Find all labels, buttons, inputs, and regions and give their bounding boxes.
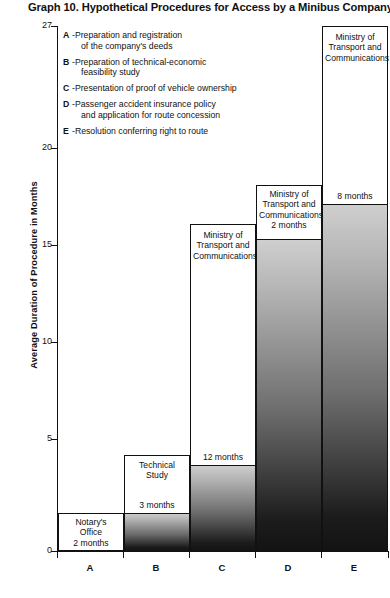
bar-d-name-line2: Transport and — [262, 199, 315, 209]
bar-e: Ministry of Transport and Communications… — [322, 26, 388, 551]
x-tick-mark-3 — [255, 552, 256, 558]
x-tick-label-d: D — [255, 562, 321, 573]
x-tick-label-e: E — [321, 562, 387, 573]
legend-text-d: -Passenger accident insurance policy and… — [72, 99, 279, 120]
bar-b: Technical Study 3 months — [124, 455, 190, 551]
y-tick-label-0: 0 — [26, 545, 52, 555]
x-axis-line — [57, 551, 389, 552]
y-axis-line — [57, 26, 58, 552]
chart-title: Graph 10. Hypothetical Procedures for Ac… — [28, 1, 386, 13]
y-tick-mark-5 — [51, 439, 57, 440]
bar-e-fill — [322, 204, 388, 551]
legend-text-d-line2: and application for route concession — [72, 110, 279, 121]
bar-a-name-line1: Notary's — [75, 517, 106, 527]
legend-item-c: C -Presentation of proof of vehicle owne… — [63, 83, 279, 94]
bar-c-duration: 12 months — [193, 452, 253, 462]
bar-d: Ministry of Transport and Communications… — [256, 185, 322, 551]
x-tick-mark-1 — [123, 552, 124, 558]
legend-item-a: A -Preparation and registration of the c… — [63, 30, 279, 51]
x-tick-mark-4 — [321, 552, 322, 558]
bar-c: Ministry of Transport and Communications… — [190, 224, 256, 551]
bar-b-label-box: Technical Study 3 months — [124, 455, 190, 514]
y-tick-mark-20 — [51, 148, 57, 149]
y-tick-label-10: 10 — [26, 336, 52, 346]
bar-d-name-line1: Ministry of — [269, 189, 308, 199]
chart-root: Graph 10. Hypothetical Procedures for Ac… — [0, 0, 390, 598]
legend-item-d: D -Passenger accident insurance policy a… — [63, 99, 279, 120]
y-tick-mark-15 — [51, 245, 57, 246]
bar-c-name: Ministry of Transport and Communications — [193, 230, 253, 261]
legend-key-c: C — [63, 83, 72, 94]
legend-text-b: -Preparation of technical-economic feasi… — [72, 57, 279, 78]
bar-b-name-line1: Technical — [139, 460, 175, 470]
legend-text-a-line2: of the company's deeds — [72, 41, 279, 52]
bar-c-label-box: Ministry of Transport and Communications… — [190, 224, 256, 466]
legend-item-e: E -Resolution conferring right to route — [63, 126, 279, 137]
bar-e-duration: 8 months — [325, 191, 385, 201]
legend-text-b-line1: -Preparation of technical-economic — [72, 57, 206, 67]
bar-b-fill — [124, 513, 190, 551]
legend-text-e: -Resolution conferring right to route — [72, 126, 279, 137]
bar-a-label-box: Notary's Office 2 months — [58, 513, 124, 551]
bar-d-name-line3: Communications — [259, 210, 323, 220]
bar-c-name-line2: Transport and — [196, 240, 249, 250]
legend-key-e: E — [63, 126, 72, 137]
bar-e-name: Ministry of Transport and Communications — [325, 32, 385, 63]
legend-item-b: B -Preparation of technical-economic fea… — [63, 57, 279, 78]
bar-a-duration: 2 months — [73, 538, 108, 548]
x-tick-mark-0 — [57, 552, 58, 558]
bar-d-name: Ministry of Transport and Communications… — [259, 189, 319, 231]
x-tick-label-c: C — [189, 562, 255, 573]
bar-b-name-line2: Study — [146, 470, 168, 480]
bar-c-name-line3: Communications — [193, 251, 257, 261]
y-tick-label-27: 27 — [26, 20, 52, 30]
legend-text-a: -Preparation and registration of the com… — [72, 30, 279, 51]
bar-d-label-box: Ministry of Transport and Communications… — [256, 185, 322, 240]
bar-c-name-line1: Ministry of — [203, 230, 242, 240]
bar-a: Notary's Office 2 months — [58, 513, 124, 551]
legend-text-e-line1: -Resolution conferring right to route — [72, 126, 208, 136]
bar-e-name-line1: Ministry of — [335, 32, 374, 42]
x-tick-mark-5 — [388, 552, 389, 558]
legend-key-a: A — [63, 30, 72, 51]
legend-key-d: D — [63, 99, 72, 120]
bar-a-name-line2: Office — [80, 527, 102, 537]
bar-b-name: Technical Study — [127, 460, 187, 481]
y-tick-mark-10 — [51, 342, 57, 343]
legend-text-c-line1: -Presentation of proof of vehicle owners… — [72, 83, 237, 93]
x-tick-label-a: A — [57, 562, 123, 573]
y-tick-label-15: 15 — [26, 239, 52, 249]
legend-text-d-line1: -Passenger accident insurance policy — [72, 99, 216, 109]
legend-text-c: -Presentation of proof of vehicle owners… — [72, 83, 279, 94]
y-tick-label-20: 20 — [26, 142, 52, 152]
bar-d-duration: 2 months — [271, 220, 306, 230]
bar-e-name-line2: Transport and — [328, 42, 381, 52]
y-tick-label-5: 5 — [26, 433, 52, 443]
legend-text-a-line1: -Preparation and registration — [72, 30, 182, 40]
bar-d-fill — [256, 239, 322, 551]
legend: A -Preparation and registration of the c… — [63, 30, 279, 142]
y-axis-title: Average Duration of Procedure in Months — [29, 145, 39, 405]
bar-e-label-box: Ministry of Transport and Communications… — [322, 26, 388, 205]
x-tick-label-b: B — [123, 562, 189, 573]
bar-e-name-line3: Communications — [325, 53, 389, 63]
x-tick-mark-2 — [189, 552, 190, 558]
bar-a-name: Notary's Office 2 months — [61, 517, 121, 548]
legend-key-b: B — [63, 57, 72, 78]
legend-text-b-line2: feasibility study — [72, 67, 279, 78]
bar-c-fill — [190, 465, 256, 551]
bar-b-duration: 3 months — [127, 500, 187, 510]
y-tick-mark-27 — [51, 26, 57, 27]
